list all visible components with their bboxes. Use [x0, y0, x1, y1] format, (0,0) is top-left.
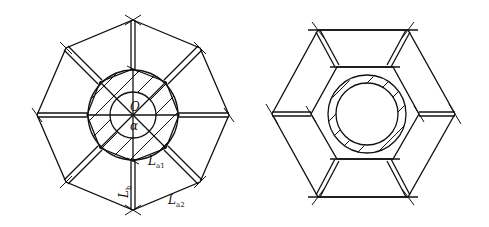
label-center-O: O: [130, 100, 140, 114]
hexagon-frame: [266, 22, 461, 205]
outer-hexagon: [272, 30, 455, 197]
hatch-ring-left: [60, 20, 220, 190]
spokes-right: [272, 30, 455, 197]
octagon-frame: [32, 15, 234, 215]
label-La2: La2: [167, 193, 185, 209]
label-La1: La1: [147, 154, 165, 170]
outer-circle-right: [328, 75, 406, 153]
inner-circle-right: [336, 83, 398, 145]
diagram-canvas: O α La1 La2 Lb: [0, 0, 489, 227]
label-angle-alpha: α: [130, 119, 138, 133]
label-Lb: Lb: [117, 185, 133, 199]
